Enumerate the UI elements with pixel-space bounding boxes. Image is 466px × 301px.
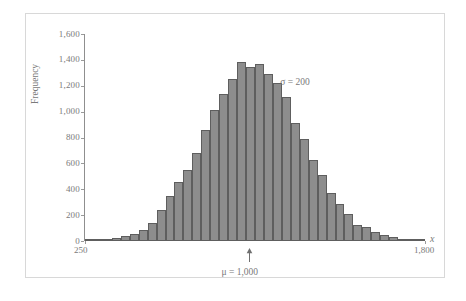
histogram-bar xyxy=(166,196,175,241)
y-axis-tick-mark xyxy=(81,112,84,113)
histogram-bar xyxy=(183,170,192,241)
y-axis-tick-label: 1,600 xyxy=(34,30,80,39)
y-axis-tick: 400 xyxy=(26,185,80,194)
x-axis-tick-mark xyxy=(85,241,86,244)
histogram-bar xyxy=(380,235,389,241)
histogram-bar xyxy=(112,238,121,241)
histogram-bar xyxy=(121,236,130,241)
histogram-bar xyxy=(344,214,353,241)
histogram-bar xyxy=(255,64,264,241)
y-axis-title: Frequency xyxy=(30,90,40,104)
histogram-bar xyxy=(228,79,237,241)
x-axis-tick-label: 250 xyxy=(74,245,88,255)
histogram-bar xyxy=(237,62,246,241)
mu-arrow-icon xyxy=(245,248,254,262)
y-axis-tick-mark xyxy=(81,60,84,61)
y-axis-tick-label: 200 xyxy=(34,211,80,220)
histogram-bar xyxy=(246,67,255,241)
histogram-bar xyxy=(201,130,210,241)
y-axis-tick-mark xyxy=(81,241,84,242)
y-axis-tick: 1,000 xyxy=(26,107,80,116)
y-axis-tick: 600 xyxy=(26,159,80,168)
histogram-bar xyxy=(148,223,157,241)
y-axis-tick-mark xyxy=(81,215,84,216)
histogram-bar xyxy=(353,225,362,241)
histogram-bar xyxy=(282,97,291,241)
sigma-annotation: σ = 200 xyxy=(280,77,309,87)
y-axis-tick-label: 1,400 xyxy=(34,55,80,64)
figure-frame: Frequency 02004006008001,0001,2001,4001,… xyxy=(25,13,445,278)
y-axis-tick-mark xyxy=(81,138,84,139)
y-axis-tick-label: 600 xyxy=(34,159,80,168)
histogram-bar xyxy=(192,153,201,241)
histogram-bar xyxy=(291,123,300,241)
histogram-bar xyxy=(309,160,318,241)
histogram-bar xyxy=(174,182,183,241)
y-axis-tick: 0 xyxy=(26,237,80,246)
y-axis-tick: 800 xyxy=(26,133,80,142)
histogram-bar xyxy=(407,239,416,241)
histogram-bar xyxy=(362,227,371,241)
x-axis-tick-mark xyxy=(425,241,426,244)
histogram-bar xyxy=(264,74,273,241)
x-axis-tick-label: 1,800 xyxy=(414,245,434,255)
histogram-bar xyxy=(416,239,425,241)
histogram-bar xyxy=(85,239,94,241)
y-axis-tick: 1,400 xyxy=(26,55,80,64)
histogram-bar xyxy=(130,234,139,241)
plot-area: Frequency 02004006008001,0001,2001,4001,… xyxy=(26,14,446,279)
histogram-bar xyxy=(94,239,103,241)
y-axis-tick-label: 1,000 xyxy=(34,107,80,116)
histogram-bar xyxy=(300,139,309,241)
histogram-bar xyxy=(139,230,148,241)
y-axis-tick: 200 xyxy=(26,211,80,220)
y-axis-tick-label: 800 xyxy=(34,133,80,142)
histogram-bar xyxy=(210,110,219,241)
histogram-bar xyxy=(103,239,112,241)
histogram-bars xyxy=(85,34,425,241)
histogram-bar xyxy=(157,210,166,241)
y-axis-tick-mark xyxy=(81,163,84,164)
histogram-bar xyxy=(336,204,345,241)
y-axis-tick-mark xyxy=(81,189,84,190)
histogram-bar xyxy=(318,175,327,241)
histogram-bar xyxy=(371,232,380,241)
x-axis-title: x xyxy=(430,233,434,244)
histogram-bar xyxy=(273,83,282,241)
y-axis-tick: 1,200 xyxy=(26,81,80,90)
histogram-bar xyxy=(327,193,336,241)
histogram-bar xyxy=(398,239,407,241)
y-axis-tick: 1,600 xyxy=(26,30,80,39)
histogram-bar xyxy=(389,237,398,241)
histogram-bar xyxy=(219,94,228,241)
y-axis-tick-mark xyxy=(81,34,84,35)
y-axis-tick-mark xyxy=(81,86,84,87)
mu-annotation: μ = 1,000 xyxy=(222,267,259,277)
y-axis-tick-label: 1,200 xyxy=(34,81,80,90)
y-axis-tick-label: 400 xyxy=(34,185,80,194)
